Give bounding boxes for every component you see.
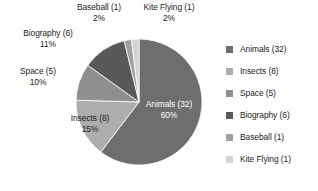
slice-callout-space-percent: 10%	[2, 77, 74, 88]
slice-label-animals: Animals (32) 60%	[132, 99, 206, 120]
pie-chart-figure: Baseball (1) 2% Kite Flying (1) 2% Biogr…	[0, 0, 318, 191]
slice-callout-space-name: Space (5)	[2, 66, 74, 77]
slice-label-insects-percent: 15%	[57, 124, 123, 135]
slice-callout-space: Space (5) 10%	[2, 66, 74, 87]
slice-label-insects-name: Insects (8)	[57, 113, 123, 124]
legend-swatch-icon	[226, 134, 233, 141]
legend-swatch-icon	[226, 68, 233, 75]
slice-callout-biography-percent: 11%	[6, 39, 90, 50]
legend-item-insects-8[interactable]: Insects (8)	[226, 60, 318, 82]
pie-plot-area: Baseball (1) 2% Kite Flying (1) 2% Biogr…	[0, 0, 215, 191]
legend-item-kite-flying-1[interactable]: Kite Flying (1)	[226, 148, 318, 170]
slice-label-insects: Insects (8) 15%	[57, 113, 123, 134]
legend-item-baseball-1[interactable]: Baseball (1)	[226, 126, 318, 148]
slice-label-animals-percent: 60%	[132, 110, 206, 121]
slice-label-animals-name: Animals (32)	[132, 99, 206, 110]
legend-item-biography-6[interactable]: Biography (6)	[226, 104, 318, 126]
slice-callout-kite-flying-name: Kite Flying (1)	[130, 2, 208, 13]
slice-callout-baseball-percent: 2%	[64, 13, 134, 24]
slice-callout-baseball: Baseball (1) 2%	[64, 2, 134, 23]
slice-callout-baseball-name: Baseball (1)	[64, 2, 134, 13]
slice-callout-biography-name: Biography (6)	[6, 28, 90, 39]
legend-item-label: Baseball (1)	[240, 132, 284, 142]
legend-swatch-icon	[226, 46, 233, 53]
legend-swatch-icon	[226, 112, 233, 119]
legend-item-label: Animals (32)	[240, 44, 286, 54]
legend-item-label: Biography (6)	[240, 110, 290, 120]
legend-swatch-icon	[226, 90, 233, 97]
chart-legend: Animals (32)Insects (8)Space (5)Biograph…	[226, 38, 318, 170]
legend-item-animals-32[interactable]: Animals (32)	[226, 38, 318, 60]
slice-callout-biography: Biography (6) 11%	[6, 28, 90, 49]
slice-callout-kite-flying-percent: 2%	[130, 13, 208, 24]
legend-item-label: Kite Flying (1)	[240, 154, 291, 164]
legend-swatch-icon	[226, 156, 233, 163]
legend-item-label: Space (5)	[240, 88, 276, 98]
legend-item-space-5[interactable]: Space (5)	[226, 82, 318, 104]
legend-item-label: Insects (8)	[240, 66, 279, 76]
slice-callout-kite-flying: Kite Flying (1) 2%	[130, 2, 208, 23]
